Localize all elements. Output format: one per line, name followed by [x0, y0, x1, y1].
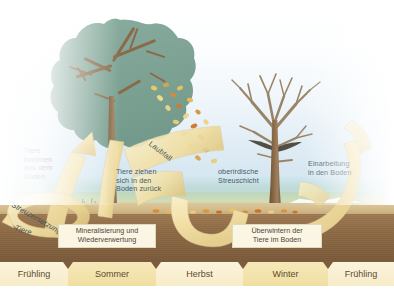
left-vignette: [0, 0, 120, 205]
season-timeline: FrühlingSommerHerbstWinterFrühling: [0, 262, 394, 286]
figure-canvas: Tiere kommen aus dem Boden Streuzersetzu…: [0, 0, 394, 299]
season-winter-3: Winter: [243, 262, 328, 286]
season-label: Winter: [272, 269, 298, 279]
season-frhling-4: Frühling: [328, 262, 394, 286]
season-sommer-1: Sommer: [68, 262, 156, 286]
label-litter-layer: oberirdische Streuschicht: [218, 168, 274, 185]
season-label: Herbst: [186, 269, 213, 279]
season-label: Sommer: [95, 269, 129, 279]
label-overwintering: Überwintern der Tiere im Boden: [232, 224, 322, 248]
right-vignette: [304, 0, 394, 205]
season-label: Frühling: [18, 269, 51, 279]
season-herbst-2: Herbst: [156, 262, 243, 286]
season-divider-notch: [238, 262, 248, 269]
timeline-base: [0, 286, 394, 299]
label-animals-retreat: Tiere ziehen sich in den Boden zurück: [116, 168, 178, 194]
season-divider-notch: [323, 262, 333, 269]
label-mineralisation: Mineralisierung und Wiederverwertung: [58, 224, 156, 248]
season-label: Frühling: [345, 269, 378, 279]
season-divider-notch: [151, 262, 161, 269]
season-divider-notch: [63, 262, 73, 269]
season-frhling-0: Frühling: [0, 262, 68, 286]
